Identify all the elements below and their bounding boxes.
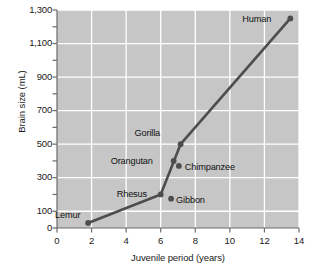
chart-figure: 01003005007009001,1001,300 02468101214 L… — [0, 0, 313, 271]
point-label-rhesus: Rhesus — [117, 189, 147, 199]
x-tick-label: 2 — [80, 235, 104, 246]
y-axis-title: Brain size (mL) — [16, 37, 27, 167]
x-tick-label: 10 — [218, 235, 242, 246]
point-label-human: Human — [242, 14, 271, 24]
x-tick-label: 8 — [183, 235, 207, 246]
x-tick-label: 6 — [149, 235, 173, 246]
point-label-gorilla: Gorilla — [135, 128, 161, 138]
point-label-chimpanzee: Chimpanzee — [185, 162, 235, 172]
point-label-orangutan: Orangutan — [111, 156, 153, 166]
x-axis-title: Juvenile period (years) — [57, 252, 299, 263]
x-tick-label: 0 — [45, 235, 69, 246]
point-label-lemur: Lemur — [55, 210, 80, 220]
x-tick-label: 14 — [287, 235, 311, 246]
point-label-gibbon: Gibbon — [176, 195, 205, 205]
x-tick-label: 4 — [114, 235, 138, 246]
x-tick-label: 12 — [252, 235, 276, 246]
